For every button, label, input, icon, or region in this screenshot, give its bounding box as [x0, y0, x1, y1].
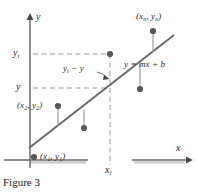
- tick-label-x-i: xi: [105, 165, 112, 177]
- residual-annotation-arrow: [97, 72, 110, 80]
- data-point-3: [81, 125, 87, 131]
- data-point-2: [55, 103, 61, 109]
- figure-caption: Figure 3: [3, 176, 40, 188]
- residual-annotation-label: yi − y: [63, 64, 84, 74]
- y-axis-label: y: [36, 12, 41, 22]
- tick-label-y-i: yi: [13, 48, 20, 60]
- tick-label-y-bar: y: [16, 82, 21, 92]
- point-label-n: (xn, yn): [136, 12, 161, 22]
- x-axis-right-segment: [132, 157, 193, 164]
- data-point-i: [107, 51, 113, 57]
- point-label-1: (x1, y1): [40, 152, 65, 162]
- x-axis-label: x: [176, 143, 181, 153]
- figure-container: y x yi y xi yi − y y = mx + b (x1, y1) (…: [0, 0, 198, 194]
- regression-diagram: [0, 0, 198, 194]
- line-equation-label: y = mx + b: [124, 60, 165, 69]
- data-point-1: [31, 154, 37, 160]
- data-point-5: [137, 86, 143, 92]
- point-label-2: (x2, y2): [17, 101, 42, 111]
- regression-line: [29, 35, 174, 148]
- data-point-n: [150, 28, 156, 34]
